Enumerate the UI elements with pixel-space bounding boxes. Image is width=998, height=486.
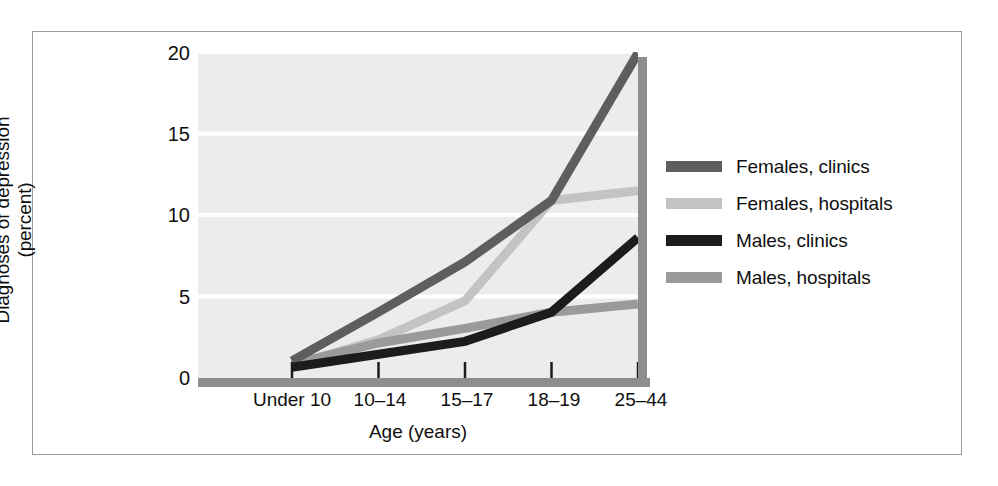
legend-item: Males, hospitals [666, 263, 946, 292]
y-axis-title-line2: (percent) [14, 182, 36, 257]
plot-area [198, 52, 638, 378]
y-axis-spine [638, 57, 647, 382]
chart-figure: Diagnoses of depression (percent) 20 15 … [0, 0, 998, 486]
x-tick-label: Under 10 [253, 389, 331, 411]
y-axis-title: Diagnoses of depression (percent) [0, 60, 36, 380]
legend-item: Females, hospitals [666, 189, 946, 218]
x-tick-label: 25–44 [615, 389, 668, 411]
legend-swatch-icon [666, 272, 722, 283]
y-tick-label: 10 [146, 204, 190, 227]
y-tick-label: 0 [146, 367, 190, 390]
chart-legend: Females, clinics Females, hospitals Male… [666, 152, 946, 300]
y-axis-tick-labels: 20 15 10 5 0 [140, 0, 190, 486]
y-axis-title-line1: Diagnoses of depression [0, 117, 14, 324]
legend-swatch-icon [666, 235, 722, 246]
series-lines [292, 53, 638, 367]
series-line [292, 53, 638, 361]
x-tick-marks [292, 362, 638, 378]
legend-item: Males, clinics [666, 226, 946, 255]
gridlines [198, 53, 638, 297]
legend-item-label: Females, clinics [736, 156, 870, 178]
y-tick-label: 15 [146, 123, 190, 146]
chart-plot-svg [198, 52, 638, 378]
legend-swatch-icon [666, 198, 722, 209]
legend-item-label: Males, hospitals [736, 267, 871, 289]
x-axis-title: Age (years) [198, 421, 638, 443]
x-axis-spine [198, 378, 650, 387]
y-tick-label: 5 [146, 286, 190, 309]
y-tick-label: 20 [146, 42, 190, 65]
legend-item: Females, clinics [666, 152, 946, 181]
x-tick-label: 18–19 [528, 389, 581, 411]
x-tick-label: 15–17 [441, 389, 494, 411]
legend-item-label: Males, clinics [736, 230, 848, 252]
legend-swatch-icon [666, 161, 722, 172]
x-axis-tick-labels: Under 10 10–14 15–17 18–19 25–44 [198, 389, 658, 419]
legend-item-label: Females, hospitals [736, 193, 893, 215]
x-tick-label: 10–14 [354, 389, 407, 411]
